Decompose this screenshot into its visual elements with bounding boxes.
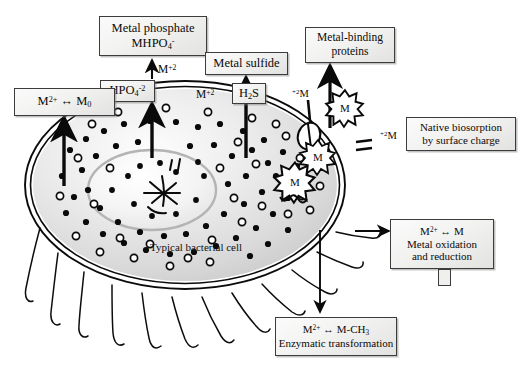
mbp-line2: proteins xyxy=(331,45,368,59)
oxidation-line2: Metal oxidation xyxy=(407,238,477,251)
native-line2: by surface charge xyxy=(422,134,499,147)
starburst-label-internal: M xyxy=(285,172,305,192)
label-surface-bound-metal: +2M xyxy=(380,130,397,141)
enzymatic-line2: Enzymatic transformation xyxy=(279,337,394,350)
oxidation-line3: and reduction xyxy=(412,250,472,263)
label-sulfide-influx: M+2 xyxy=(196,88,214,100)
oxidation-box-tab xyxy=(438,269,451,286)
surface-charge-marks xyxy=(356,140,372,150)
callout-h2s[interactable]: H2S xyxy=(232,83,266,104)
metal-zero-equation: M2+ ↔ M0 xyxy=(38,94,92,110)
h2s-formula: H2S xyxy=(239,86,259,102)
enzymatic-equation: M2+ ↔ M-CH3 xyxy=(303,323,369,337)
callout-metal-sulfide[interactable]: Metal sulfide xyxy=(205,52,288,75)
callout-metal-zero[interactable]: M2+ ↔ M0 xyxy=(14,88,115,116)
figure-canvas: Metal phosphate MHPO4- HPO4-2 Metal sulf… xyxy=(0,0,526,376)
callout-metal-binding-proteins[interactable]: Metal-binding proteins xyxy=(305,27,395,63)
callout-native-biosorption[interactable]: Native biosorption by surface charge xyxy=(406,117,516,151)
callout-metal-phosphate[interactable]: Metal phosphate MHPO4- xyxy=(99,16,207,56)
starburst-label-free-outside: M xyxy=(335,98,355,118)
callout-metal-oxidation[interactable]: M2+ ↔ M Metal oxidation and reduction xyxy=(390,219,494,269)
label-pore-influx: +2M xyxy=(292,88,309,99)
metal-sulfide-label: Metal sulfide xyxy=(213,56,279,71)
metal-phosphate-line1: Metal phosphate xyxy=(112,21,195,36)
starburst-label-membrane-bound: M xyxy=(308,147,328,167)
oxidation-equation: M2+ ↔ M xyxy=(420,225,464,238)
label-typical-bacterial-cell: Typical bacterial cell xyxy=(150,241,242,253)
mbp-line1: Metal-binding xyxy=(317,31,383,45)
metal-phosphate-formula: MHPO4- xyxy=(132,36,175,52)
callout-enzymatic-transformation[interactable]: M2+ ↔ M-CH3 Enzymatic transformation xyxy=(275,317,397,356)
native-line1: Native biosorption xyxy=(420,121,502,134)
label-phosphate-influx: M+2 xyxy=(158,63,176,75)
